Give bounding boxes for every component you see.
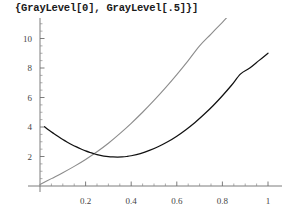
y-tick-label: 10: [23, 34, 33, 44]
plot-window: {GrayLevel[0], GrayLevel[.5]}] 0.20.40.6…: [0, 0, 284, 209]
series-curve-2: [40, 18, 229, 185]
plot-title: {GrayLevel[0], GrayLevel[.5]}]: [15, 1, 198, 15]
plot-canvas: 0.20.40.60.81 246810: [0, 18, 284, 209]
x-tick-label: 0.8: [217, 196, 229, 206]
x-tick-label: 0.6: [171, 196, 183, 206]
x-tick-labels: 0.20.40.60.81: [80, 196, 270, 206]
x-tick-label: 0.4: [126, 196, 138, 206]
y-tick-label: 4: [28, 122, 33, 132]
series-layer: [40, 18, 268, 185]
y-axis: [40, 18, 45, 192]
y-tick-label: 2: [28, 152, 33, 162]
chart-svg: 0.20.40.60.81 246810: [0, 18, 284, 209]
x-tick-label: 0.2: [80, 196, 91, 206]
y-tick-label: 8: [28, 63, 33, 73]
y-tick-label: 6: [28, 93, 33, 103]
x-tick-label: 1: [266, 196, 271, 206]
x-axis: [28, 182, 282, 187]
y-tick-labels: 246810: [23, 34, 33, 162]
series-curve-1: [45, 53, 268, 157]
